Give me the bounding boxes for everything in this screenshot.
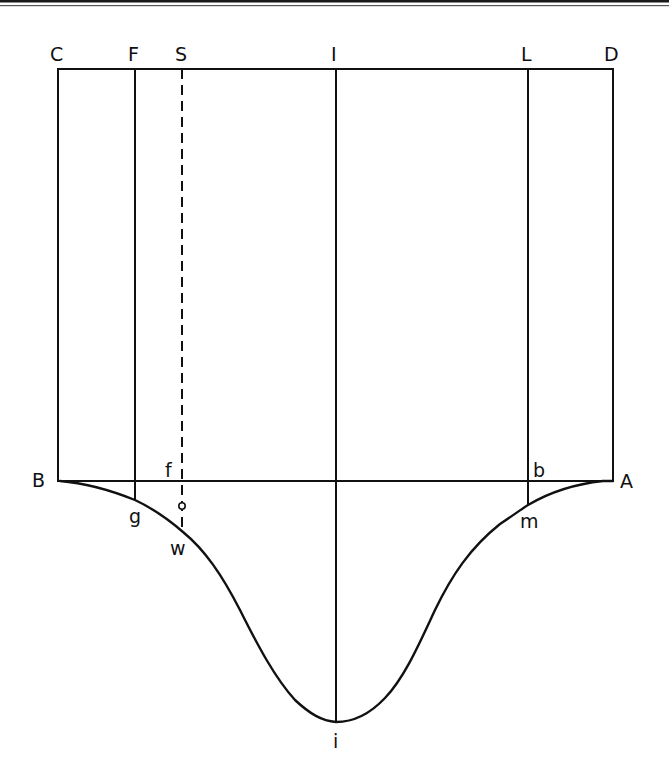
label-a: A: [620, 470, 633, 492]
header-rules: [0, 0, 669, 6]
label-i-upper: I: [331, 43, 337, 65]
label-w: w: [170, 537, 186, 559]
label-f-lower: f: [165, 459, 173, 481]
label-g: g: [129, 505, 141, 527]
label-l: L: [521, 43, 532, 65]
label-m: m: [520, 510, 539, 532]
label-i-lower: i: [333, 730, 338, 752]
label-s: S: [175, 43, 187, 65]
label-f: F: [128, 43, 139, 65]
header-rule-thick: [0, 0, 669, 3]
small-circle-marker: [179, 503, 185, 509]
label-b-lower: b: [533, 459, 545, 481]
label-b-upper: B: [32, 469, 45, 491]
label-c: C: [50, 43, 63, 65]
header-rule-thin: [0, 5, 669, 6]
label-d: D: [604, 43, 619, 65]
geometric-diagram: C F S I L D B f b A g w m i: [0, 0, 669, 779]
